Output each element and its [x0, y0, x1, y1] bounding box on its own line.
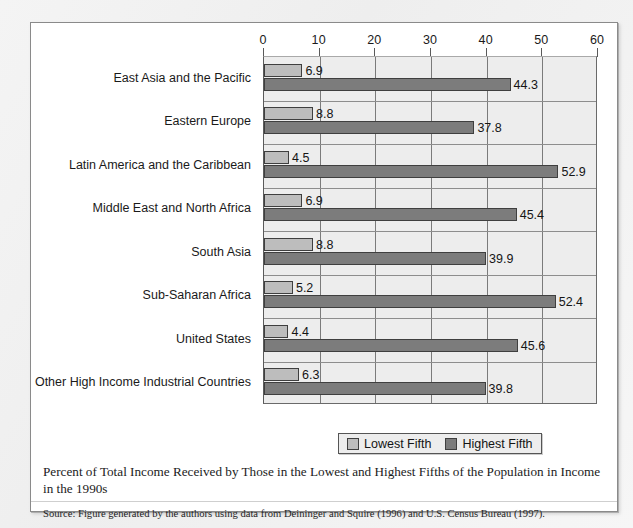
category-separator: [264, 188, 596, 189]
bar-highest-fifth: [264, 208, 517, 221]
bar-value-lowest-fifth: 5.2: [296, 282, 313, 295]
bar-highest-fifth: [264, 78, 511, 91]
category-separator: [264, 275, 596, 276]
legend-label: Highest Fifth: [462, 437, 532, 451]
bar-value-highest-fifth: 45.4: [520, 209, 544, 222]
bar-highest-fifth: [264, 121, 474, 134]
chart-legend: Lowest FifthHighest Fifth: [338, 433, 542, 454]
caption-divider: [31, 501, 617, 502]
category-label: Sub-Saharan Africa: [143, 288, 251, 302]
bar-lowest-fifth: [264, 281, 293, 294]
x-axis-tick-label: 10: [312, 33, 326, 47]
bar-value-highest-fifth: 44.3: [514, 79, 538, 92]
category-separator: [264, 144, 596, 145]
plot-area: [263, 56, 597, 404]
category-separator: [264, 362, 596, 363]
bar-lowest-fifth: [264, 107, 313, 120]
category-separator: [264, 318, 596, 319]
figure-source: Source: Figure generated by the authors …: [43, 507, 609, 520]
bar-lowest-fifth: [264, 238, 313, 251]
category-label: Latin America and the Caribbean: [69, 158, 251, 172]
bar-value-lowest-fifth: 8.8: [316, 239, 333, 252]
legend-item: Lowest Fifth: [347, 437, 431, 451]
bar-value-lowest-fifth: 6.9: [305, 65, 322, 78]
x-axis-tick-label: 0: [259, 33, 266, 47]
bar-value-lowest-fifth: 6.3: [302, 369, 319, 382]
figure-frame: 0102030405060 East Asia and the PacificE…: [30, 22, 618, 512]
figure-caption: Percent of Total Income Received by Thos…: [43, 464, 607, 497]
x-axis-tick-label: 30: [423, 33, 437, 47]
category-label: United States: [176, 332, 251, 346]
page-canvas: 0102030405060 East Asia and the PacificE…: [0, 0, 633, 528]
legend-swatch-lowest-fifth: [347, 438, 359, 450]
bar-highest-fifth: [264, 295, 556, 308]
category-label: Middle East and North Africa: [93, 201, 251, 215]
bar-highest-fifth: [264, 382, 486, 395]
bar-chart: 0102030405060 East Asia and the PacificE…: [31, 23, 619, 415]
bar-highest-fifth: [264, 165, 558, 178]
bar-value-highest-fifth: 52.4: [559, 296, 583, 309]
category-label: Other High Income Industrial Countries: [35, 375, 251, 389]
bar-value-highest-fifth: 39.8: [489, 383, 513, 396]
bar-lowest-fifth: [264, 151, 289, 164]
legend-swatch-highest-fifth: [445, 438, 457, 450]
x-axis-tick-label: 40: [479, 33, 493, 47]
bar-value-highest-fifth: 52.9: [561, 166, 585, 179]
bar-value-lowest-fifth: 8.8: [316, 108, 333, 121]
x-axis-tick-label: 60: [590, 33, 604, 47]
category-label: Eastern Europe: [164, 114, 251, 128]
bar-value-lowest-fifth: 6.9: [305, 195, 322, 208]
x-axis: 0102030405060: [263, 41, 599, 57]
bar-value-highest-fifth: 39.9: [489, 253, 513, 266]
bar-value-highest-fifth: 37.8: [477, 122, 501, 135]
bar-value-lowest-fifth: 4.5: [292, 152, 309, 165]
bar-value-lowest-fifth: 4.4: [291, 326, 308, 339]
legend-label: Lowest Fifth: [364, 437, 431, 451]
bar-value-highest-fifth: 45.6: [521, 340, 545, 353]
bar-lowest-fifth: [264, 194, 302, 207]
category-label: East Asia and the Pacific: [113, 71, 251, 85]
bar-highest-fifth: [264, 339, 518, 352]
category-label: South Asia: [191, 245, 251, 259]
x-axis-tick: [597, 48, 598, 57]
category-separator: [264, 231, 596, 232]
bar-lowest-fifth: [264, 368, 299, 381]
bar-highest-fifth: [264, 252, 486, 265]
bar-lowest-fifth: [264, 64, 302, 77]
bar-lowest-fifth: [264, 325, 288, 338]
legend-item: Highest Fifth: [445, 437, 532, 451]
x-axis-tick-label: 20: [367, 33, 381, 47]
category-separator: [264, 101, 596, 102]
x-axis-tick-label: 50: [534, 33, 548, 47]
